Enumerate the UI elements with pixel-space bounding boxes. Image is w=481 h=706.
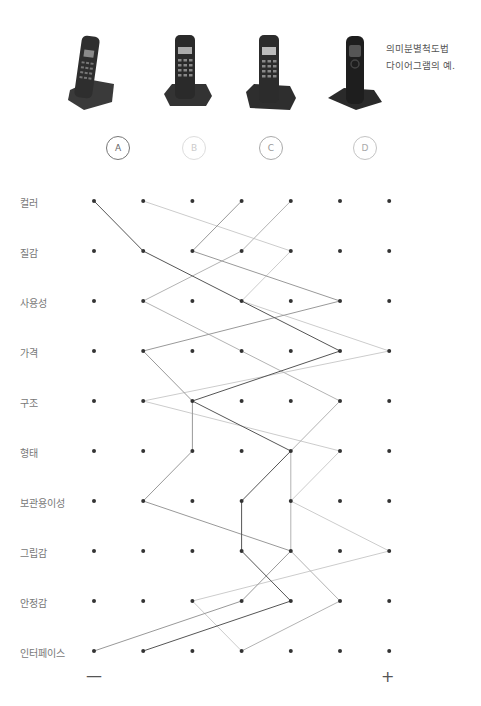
grid-dot [387, 299, 391, 303]
grid-dot [190, 649, 194, 653]
grid-dot [387, 349, 391, 353]
grid-dot [338, 599, 342, 603]
grid-dot [338, 399, 342, 403]
grid-dot [141, 249, 145, 253]
grid-dot [338, 199, 342, 203]
grid-dot [289, 599, 293, 603]
grid-dot [240, 249, 244, 253]
grid-dot [240, 549, 244, 553]
grid-dot [387, 399, 391, 403]
grid-dot [190, 349, 194, 353]
grid-dot [240, 299, 244, 303]
grid-dot [141, 199, 145, 203]
grid-dot [289, 549, 293, 553]
grid-dot [92, 649, 96, 653]
grid-dot [92, 349, 96, 353]
grid-dot [190, 499, 194, 503]
grid-dot [289, 299, 293, 303]
grid-dot [141, 499, 145, 503]
minus-marker: — [86, 666, 102, 685]
grid-dot [141, 649, 145, 653]
grid-dot [387, 199, 391, 203]
grid-dot [289, 249, 293, 253]
grid-dot [92, 399, 96, 403]
grid-dot [387, 499, 391, 503]
grid-dot [289, 199, 293, 203]
grid-dot [190, 449, 194, 453]
grid-dot [289, 349, 293, 353]
grid-dot [190, 399, 194, 403]
grid-dot [240, 449, 244, 453]
grid-dot [141, 299, 145, 303]
grid-dot [141, 349, 145, 353]
grid-dot [141, 449, 145, 453]
grid-dot [289, 399, 293, 403]
grid-dot [289, 499, 293, 503]
grid-dot [338, 449, 342, 453]
grid-dot [190, 549, 194, 553]
grid-dot [92, 499, 96, 503]
semantic-differential-chart [0, 0, 481, 706]
grid-dot [92, 199, 96, 203]
grid-dot [338, 649, 342, 653]
series-line-b [143, 201, 389, 651]
grid-dot [141, 599, 145, 603]
grid-dot [387, 549, 391, 553]
grid-dot [387, 599, 391, 603]
grid-dot [141, 399, 145, 403]
grid-dot [190, 249, 194, 253]
grid-dot [190, 199, 194, 203]
plus-marker: + [381, 667, 394, 686]
grid-dot [240, 499, 244, 503]
grid-dot [338, 349, 342, 353]
series-line-c [94, 201, 340, 651]
grid-dot [141, 549, 145, 553]
grid-dot [190, 299, 194, 303]
grid-dot [92, 599, 96, 603]
grid-dot [338, 549, 342, 553]
grid-dot [338, 499, 342, 503]
grid-dot [240, 599, 244, 603]
grid-dot [289, 449, 293, 453]
grid-dot [92, 299, 96, 303]
grid-dot [338, 299, 342, 303]
grid-dot [387, 449, 391, 453]
series-line-a [94, 201, 340, 651]
grid-dot [240, 399, 244, 403]
grid-dot [92, 249, 96, 253]
grid-dot [92, 449, 96, 453]
grid-dot [387, 649, 391, 653]
grid-dot [240, 349, 244, 353]
grid-dot [190, 599, 194, 603]
grid-dot [240, 199, 244, 203]
grid-dot [240, 649, 244, 653]
grid-dot [387, 249, 391, 253]
grid-dot [289, 649, 293, 653]
grid-dot [338, 249, 342, 253]
grid-dot [92, 549, 96, 553]
